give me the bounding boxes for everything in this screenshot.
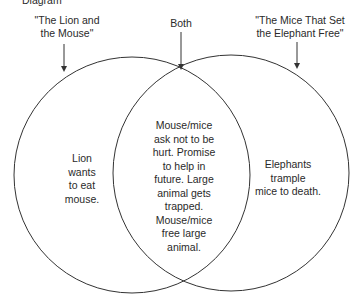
left-only-region-text: Lion wants to eat mouse. (52, 152, 112, 206)
intersection-label: Both (161, 17, 201, 30)
right-only-region-text: Elephants trample mice to death. (250, 158, 326, 199)
arrow-both-label (178, 32, 184, 70)
arrow-right-label (294, 42, 300, 69)
intersection-region-text: Mouse/mice ask not to be hurt. Promise t… (142, 119, 226, 254)
left-set-label: "The Lion and the Mouse" (22, 14, 112, 40)
right-set-label: "The Mice That Set the Elephant Free" (245, 14, 355, 40)
arrow-left-label (61, 44, 67, 72)
